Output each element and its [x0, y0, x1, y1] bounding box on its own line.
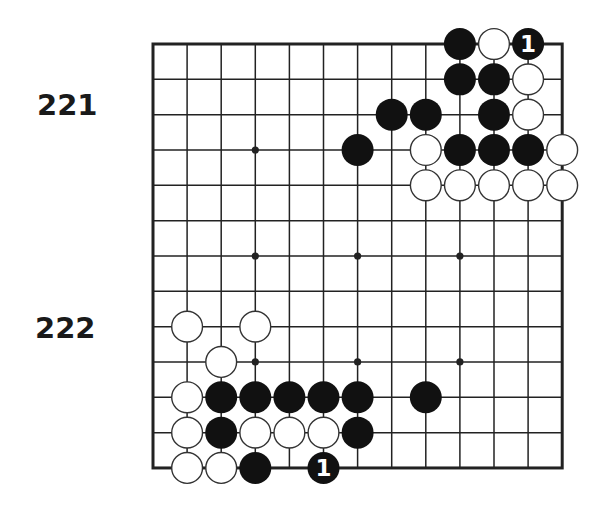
black-stone-icon — [342, 134, 374, 166]
black-stone — [410, 381, 442, 413]
black-stone-icon — [478, 99, 510, 131]
white-stone-icon — [274, 417, 305, 448]
white-stone-icon — [206, 347, 237, 378]
white-stone-icon — [547, 135, 578, 166]
black-stone-icon — [342, 417, 374, 449]
star-point — [252, 146, 259, 153]
white-stone — [410, 170, 441, 201]
black-stone: 1 — [308, 452, 340, 484]
white-stone — [547, 135, 578, 166]
white-stone — [206, 347, 237, 378]
white-stone-icon — [172, 311, 203, 342]
white-stone-icon — [513, 64, 544, 95]
white-stone-icon — [445, 170, 476, 201]
white-stone — [513, 99, 544, 130]
white-stone-icon — [308, 417, 339, 448]
black-stone-icon — [239, 452, 271, 484]
white-stone — [308, 417, 339, 448]
black-stone — [239, 381, 271, 413]
move-number-label: 1 — [315, 455, 331, 481]
white-stone — [547, 170, 578, 201]
black-stone-icon — [273, 381, 305, 413]
black-stone-icon — [205, 381, 237, 413]
black-stone — [478, 134, 510, 166]
white-stone-icon — [240, 311, 271, 342]
white-stone — [479, 29, 510, 60]
black-stone — [512, 134, 544, 166]
black-stone — [273, 381, 305, 413]
star-point — [252, 252, 259, 259]
white-stone-icon — [513, 170, 544, 201]
black-stone — [478, 63, 510, 95]
white-stone — [445, 170, 476, 201]
white-stone-icon — [513, 99, 544, 130]
star-point — [354, 252, 361, 259]
star-point — [456, 252, 463, 259]
white-stone — [479, 170, 510, 201]
white-stone-icon — [172, 417, 203, 448]
black-stone: 1 — [512, 28, 544, 60]
black-stone — [444, 63, 476, 95]
white-stone — [513, 64, 544, 95]
go-board: 11 — [0, 0, 610, 507]
white-stone — [240, 417, 271, 448]
black-stone-icon — [444, 28, 476, 60]
black-stone-icon — [512, 134, 544, 166]
black-stone-icon — [444, 134, 476, 166]
black-stone — [444, 134, 476, 166]
white-stone-icon — [172, 453, 203, 484]
white-stone — [240, 311, 271, 342]
black-stone-icon — [478, 63, 510, 95]
black-stone — [410, 99, 442, 131]
black-stone — [205, 417, 237, 449]
white-stone — [513, 170, 544, 201]
black-stone-icon — [342, 381, 374, 413]
black-stone-icon — [205, 417, 237, 449]
black-stone — [376, 99, 408, 131]
black-stone — [239, 452, 271, 484]
move-number-label: 1 — [520, 31, 536, 57]
white-stone — [410, 135, 441, 166]
star-point — [252, 358, 259, 365]
white-stone — [172, 382, 203, 413]
black-stone — [342, 134, 374, 166]
white-stone — [172, 453, 203, 484]
white-stone-icon — [410, 170, 441, 201]
star-point — [354, 358, 361, 365]
white-stone-icon — [206, 453, 237, 484]
black-stone-icon — [308, 381, 340, 413]
white-stone — [172, 311, 203, 342]
black-stone-icon — [410, 99, 442, 131]
black-stone-icon — [239, 381, 271, 413]
black-stone — [308, 381, 340, 413]
white-stone-icon — [410, 135, 441, 166]
black-stone — [478, 99, 510, 131]
white-stone — [172, 417, 203, 448]
black-stone — [205, 381, 237, 413]
white-stone-icon — [240, 417, 271, 448]
white-stone-icon — [172, 382, 203, 413]
white-stone-icon — [547, 170, 578, 201]
black-stone-icon — [410, 381, 442, 413]
black-stone — [444, 28, 476, 60]
black-stone-icon — [478, 134, 510, 166]
white-stone — [274, 417, 305, 448]
black-stone — [342, 417, 374, 449]
black-stone-icon — [444, 63, 476, 95]
star-point — [456, 358, 463, 365]
white-stone — [206, 453, 237, 484]
white-stone-icon — [479, 29, 510, 60]
white-stone-icon — [479, 170, 510, 201]
black-stone-icon — [376, 99, 408, 131]
black-stone — [342, 381, 374, 413]
